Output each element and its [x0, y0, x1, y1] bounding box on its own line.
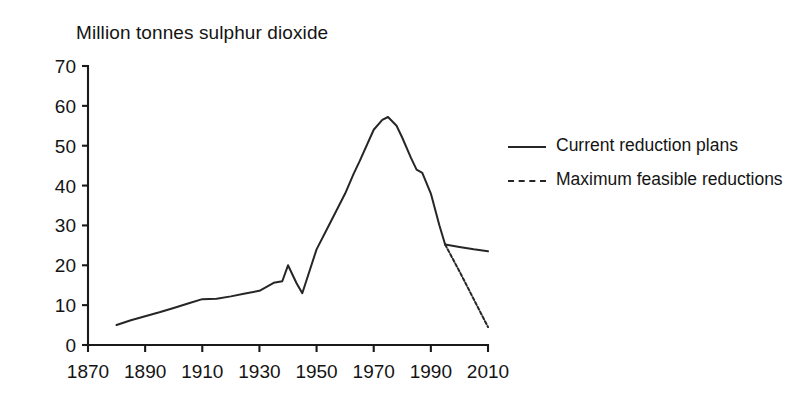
legend-swatch-maximum-feasible-reductions	[508, 180, 546, 182]
chart-figure: Million tonnes sulphur dioxide 010203040…	[0, 0, 788, 411]
y-tick-label: 40	[55, 176, 76, 197]
x-tick-label: 1890	[124, 361, 166, 382]
series-line-0	[117, 117, 446, 325]
legend-swatch-current-reduction-plans	[508, 146, 546, 148]
series-line-2	[445, 245, 488, 328]
x-tick-label: 1910	[181, 361, 223, 382]
x-tick-label: 1990	[410, 361, 452, 382]
y-tick-label: 50	[55, 136, 76, 157]
y-tick-label: 60	[55, 96, 76, 117]
x-tick-label: 1950	[295, 361, 337, 382]
axis-ticks	[82, 66, 488, 352]
y-tick-label: 30	[55, 215, 76, 236]
legend-label-maximum-feasible-reductions: Maximum feasible reductions	[556, 169, 783, 190]
data-series	[117, 117, 488, 327]
y-tick-label: 20	[55, 255, 76, 276]
x-tick-label: 1970	[353, 361, 395, 382]
series-line-1	[445, 245, 488, 252]
x-tick-label: 1870	[67, 361, 109, 382]
axis-tick-labels: 0102030405060701870189019101930195019701…	[55, 56, 509, 382]
legend-label-current-reduction-plans: Current reduction plans	[556, 135, 738, 156]
axes	[88, 66, 488, 345]
plot-area: 0102030405060701870189019101930195019701…	[0, 0, 788, 411]
x-tick-label: 1930	[238, 361, 280, 382]
y-tick-label: 70	[55, 56, 76, 77]
x-tick-label: 2010	[467, 361, 509, 382]
y-tick-label: 0	[65, 335, 76, 356]
y-tick-label: 10	[55, 295, 76, 316]
